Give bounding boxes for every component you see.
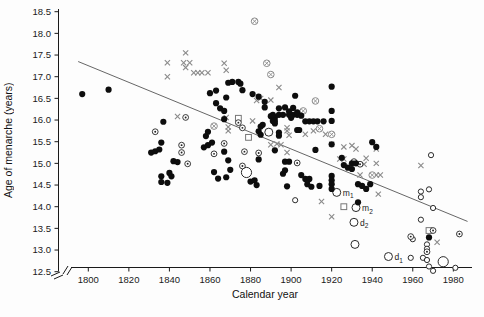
data-point xyxy=(221,149,227,155)
data-point xyxy=(373,144,379,150)
data-point xyxy=(272,147,278,153)
data-point xyxy=(265,128,273,136)
data-point xyxy=(211,169,217,175)
data-point xyxy=(164,180,170,186)
data-point xyxy=(221,108,227,114)
data-point xyxy=(316,183,322,189)
data-point xyxy=(229,79,235,85)
x-tick-label: 1860 xyxy=(199,274,220,285)
data-point xyxy=(418,195,423,200)
data-point xyxy=(329,118,335,124)
data-point xyxy=(174,159,180,165)
data-point xyxy=(254,182,260,188)
data-point xyxy=(350,218,358,226)
data-point xyxy=(223,174,229,180)
data-point xyxy=(367,181,373,187)
data-point xyxy=(246,134,252,140)
data-point xyxy=(424,257,429,262)
data-point xyxy=(205,129,211,135)
data-point xyxy=(428,153,433,158)
data-point xyxy=(209,139,215,145)
data-point xyxy=(105,87,111,93)
data-point xyxy=(158,139,164,145)
data-point xyxy=(256,156,262,162)
data-point xyxy=(288,115,294,121)
data-point xyxy=(272,120,278,126)
data-point xyxy=(227,167,233,173)
data-point xyxy=(276,133,282,139)
data-point xyxy=(329,141,335,147)
data-point xyxy=(256,94,262,100)
data-point xyxy=(292,93,298,99)
data-point xyxy=(293,198,298,203)
x-tick-label: 1960 xyxy=(402,274,423,285)
x-tick-label: 1980 xyxy=(443,274,464,285)
y-tick-label: 18.5 xyxy=(33,6,52,17)
point-label-m1: m1 xyxy=(343,188,354,199)
data-point xyxy=(418,217,423,222)
data-point xyxy=(284,183,290,189)
data-point xyxy=(213,87,219,93)
data-point xyxy=(369,139,375,145)
data-point xyxy=(286,159,292,165)
data-point xyxy=(260,122,266,128)
data-point xyxy=(453,265,458,270)
data-point xyxy=(276,105,282,111)
data-point xyxy=(79,91,85,97)
y-tick-label: 14.5 xyxy=(33,179,52,190)
data-point xyxy=(384,253,392,261)
data-point xyxy=(355,199,361,205)
series-circled-x xyxy=(211,18,376,178)
data-point xyxy=(426,264,431,269)
data-point xyxy=(262,99,268,105)
x-axis-title: Calendar year xyxy=(130,288,400,300)
data-point xyxy=(237,81,243,87)
x-tick-label: 1880 xyxy=(240,274,261,285)
y-tick-label: 15.0 xyxy=(33,158,52,169)
trend-line xyxy=(78,62,467,222)
data-point xyxy=(363,186,369,192)
y-tick-label: 14.0 xyxy=(33,201,52,212)
axes xyxy=(55,9,473,272)
data-point xyxy=(296,127,302,133)
y-tick-label: 13.5 xyxy=(33,223,52,234)
data-point xyxy=(308,184,314,190)
data-point xyxy=(168,173,174,179)
data-point xyxy=(329,108,335,114)
x-tick-label: 1800 xyxy=(78,274,99,285)
x-tick-label: 1900 xyxy=(281,274,302,285)
point-label-d1: d1 xyxy=(395,252,404,263)
data-point xyxy=(156,146,162,152)
y-tick-label: 16.0 xyxy=(33,114,52,125)
data-point xyxy=(426,187,431,192)
y-tick-label: 12.5 xyxy=(33,266,52,277)
y-tick-label: 18.0 xyxy=(33,28,52,39)
y-tick-label: 17.5 xyxy=(33,49,52,60)
data-point xyxy=(207,90,213,96)
data-point xyxy=(426,234,432,240)
point-label-d2: d2 xyxy=(360,218,369,229)
data-point xyxy=(298,113,304,119)
data-point xyxy=(225,157,231,163)
data-point xyxy=(430,268,435,273)
data-point xyxy=(223,94,229,100)
data-point xyxy=(280,112,286,118)
x-tick-label: 1920 xyxy=(321,274,342,285)
y-tick-label: 17.0 xyxy=(33,71,52,82)
tick-labels: 12.513.013.514.014.515.015.516.016.517.0… xyxy=(33,6,464,285)
data-point xyxy=(353,160,359,166)
data-point xyxy=(438,257,448,267)
data-point xyxy=(418,189,423,194)
data-point xyxy=(351,240,359,248)
data-point xyxy=(249,91,255,97)
data-point xyxy=(258,132,264,138)
axis-break-marks xyxy=(51,266,72,279)
series-open-circle-medium xyxy=(265,128,393,260)
point-label-m2: m2 xyxy=(362,203,373,214)
data-point xyxy=(314,118,320,124)
series-filled-circle xyxy=(79,79,432,241)
data-point xyxy=(320,118,326,124)
data-point xyxy=(158,179,164,185)
data-point xyxy=(430,205,435,210)
data-point xyxy=(408,255,413,260)
